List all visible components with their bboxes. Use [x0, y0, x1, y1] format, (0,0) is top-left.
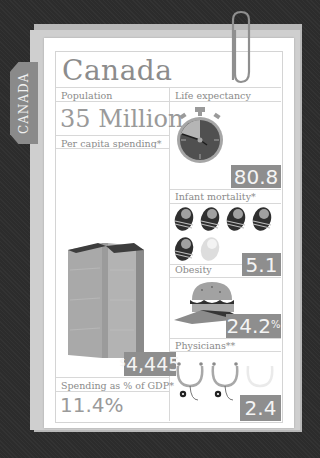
stopwatch-icon — [172, 105, 228, 165]
country-title: Canada — [62, 54, 172, 87]
physicians-label: Physicians** — [175, 340, 235, 351]
life-expectancy-badge: 80.8 — [231, 165, 281, 188]
spending-gdp-label: Spending as % of GDP* — [61, 380, 174, 391]
obesity-value: 24.2 — [226, 314, 271, 338]
currency-symbol: $ — [120, 357, 126, 368]
physicians-badge: 2.4 — [240, 395, 281, 421]
divider — [169, 338, 281, 339]
infant-mortality-label: Infant mortality* — [175, 191, 256, 202]
divider — [56, 391, 169, 392]
partial-baby-icon — [198, 235, 222, 263]
divider — [56, 148, 169, 149]
population-label: Population — [61, 90, 112, 101]
obesity-label: Obesity — [175, 264, 212, 275]
baby-icon — [250, 206, 274, 233]
stethoscope-icon — [177, 362, 203, 400]
stethoscope-icon — [212, 362, 238, 400]
baby-icon — [224, 206, 248, 233]
spending-gdp-value: 11.4% — [60, 393, 124, 417]
divider — [56, 377, 169, 378]
population-value: 35 Million — [60, 105, 183, 133]
folder-tab-label: CANADA — [12, 66, 36, 140]
baby-icon — [172, 206, 196, 233]
divider — [56, 135, 169, 136]
paperclip-icon — [229, 10, 253, 85]
partial-stethoscope-icon — [248, 366, 273, 386]
obesity-unit: % — [271, 319, 281, 330]
infant-mortality-badge: 5.1 — [242, 253, 281, 276]
baby-icon — [172, 235, 196, 263]
divider — [169, 189, 281, 190]
divider — [169, 203, 281, 204]
life-expectancy-label: Life expectancy — [175, 90, 251, 101]
stacked-bills-icon — [62, 240, 152, 365]
obesity-badge: 24.2% — [226, 314, 281, 338]
divider — [169, 351, 281, 352]
per-capita-spending-badge: $4,445 — [124, 352, 176, 376]
baby-icon — [198, 206, 222, 233]
